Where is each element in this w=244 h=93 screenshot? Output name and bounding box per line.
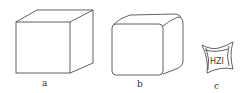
cube-a-drawing (16, 10, 93, 73)
label-a: a (42, 78, 47, 88)
label-c: c (214, 81, 219, 91)
cube-c-marking: HZI (210, 57, 224, 66)
label-b: b (137, 79, 143, 89)
cube-b-drawing (112, 14, 183, 75)
figure-canvas: HZI (0, 0, 244, 93)
